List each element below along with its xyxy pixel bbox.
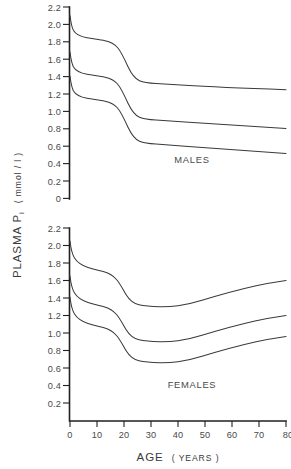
xtick-80: 80: [283, 430, 291, 440]
females-x-ticks: [70, 421, 286, 427]
xtick-30: 30: [146, 430, 157, 440]
females-ytick-1.2: 1.2: [48, 311, 61, 321]
males-ytick-2.2: 2.2: [48, 3, 61, 13]
females-ytick-2.2: 2.2: [48, 224, 61, 234]
y-axis-title-units: ( mmol / l ): [13, 152, 23, 203]
males-ytick-0.4: 0.4: [48, 159, 61, 169]
males-curve-median: [70, 52, 286, 129]
xtick-20: 20: [119, 430, 130, 440]
females-ytick-1.4: 1.4: [48, 294, 61, 304]
males-curve-lower: [70, 76, 286, 154]
females-ytick-0.6: 0.6: [48, 364, 61, 374]
xtick-50: 50: [200, 430, 211, 440]
females-ytick-0.2: 0.2: [48, 399, 61, 409]
x-axis-title-units: ( YEARS ): [172, 453, 220, 463]
males-ytick-0: 0: [56, 194, 61, 204]
females-ytick-1.6: 1.6: [48, 276, 61, 286]
females-ytick-1.0: 1.0: [48, 329, 61, 339]
svg-text:PLASMA Pi ( mmol / l ): PLASMA Pi ( mmol / l ): [11, 152, 26, 278]
figure-container: PLASMA Pi ( mmol / l ): [0, 0, 291, 469]
svg-text:AGE ( YEARS ): AGE ( YEARS ): [137, 451, 220, 463]
females-axes-line: [70, 228, 287, 421]
females-ytick-0.4: 0.4: [48, 381, 61, 391]
x-axis-title: AGE ( YEARS ): [137, 451, 220, 463]
females-ytick-0.8: 0.8: [48, 346, 61, 356]
xtick-10: 10: [92, 430, 103, 440]
xtick-40: 40: [173, 430, 184, 440]
y-axis-title: PLASMA Pi ( mmol / l ): [11, 152, 26, 278]
females-y-tick-labels: 2.2 2.0 1.8 1.6 1.4 1.2 1.0 0.8 0.6 0.4 …: [48, 224, 61, 409]
males-ytick-0.6: 0.6: [48, 142, 61, 152]
males-ytick-0.2: 0.2: [48, 177, 61, 187]
plasma-pi-age-figure: PLASMA Pi ( mmol / l ): [0, 0, 291, 469]
females-ytick-2.0: 2.0: [48, 241, 61, 251]
males-ytick-1.6: 1.6: [48, 55, 61, 65]
males-panel-label: MALES: [174, 154, 209, 165]
males-ytick-2.0: 2.0: [48, 20, 61, 30]
xtick-0: 0: [67, 430, 72, 440]
panel-males: 2.2 2.0 1.8 1.6 1.4 1.2 1.0 0.8 0.6 0.4 …: [48, 3, 286, 204]
y-axis-title-main: PLASMA P: [11, 214, 23, 278]
females-curve-upper: [70, 241, 286, 307]
males-ytick-0.8: 0.8: [48, 124, 61, 134]
males-ytick-1.8: 1.8: [48, 37, 61, 47]
xtick-70: 70: [254, 430, 265, 440]
males-ytick-1.4: 1.4: [48, 72, 61, 82]
females-y-ticks: [63, 228, 70, 403]
panel-females: 2.2 2.0 1.8 1.6 1.4 1.2 1.0 0.8 0.6 0.4 …: [48, 224, 291, 441]
females-x-tick-labels: 0 10 20 30 40 50 60 70 80: [67, 430, 291, 440]
males-y-ticks: [63, 7, 70, 198]
females-ytick-1.8: 1.8: [48, 259, 61, 269]
females-panel-label: FEMALES: [168, 379, 217, 390]
males-y-tick-labels: 2.2 2.0 1.8 1.6 1.4 1.2 1.0 0.8 0.6 0.4 …: [48, 3, 61, 204]
males-ytick-1.2: 1.2: [48, 90, 61, 100]
x-axis-title-main: AGE: [137, 451, 164, 463]
males-ytick-1.0: 1.0: [48, 107, 61, 117]
males-curve-upper: [70, 16, 286, 90]
xtick-60: 60: [227, 430, 238, 440]
